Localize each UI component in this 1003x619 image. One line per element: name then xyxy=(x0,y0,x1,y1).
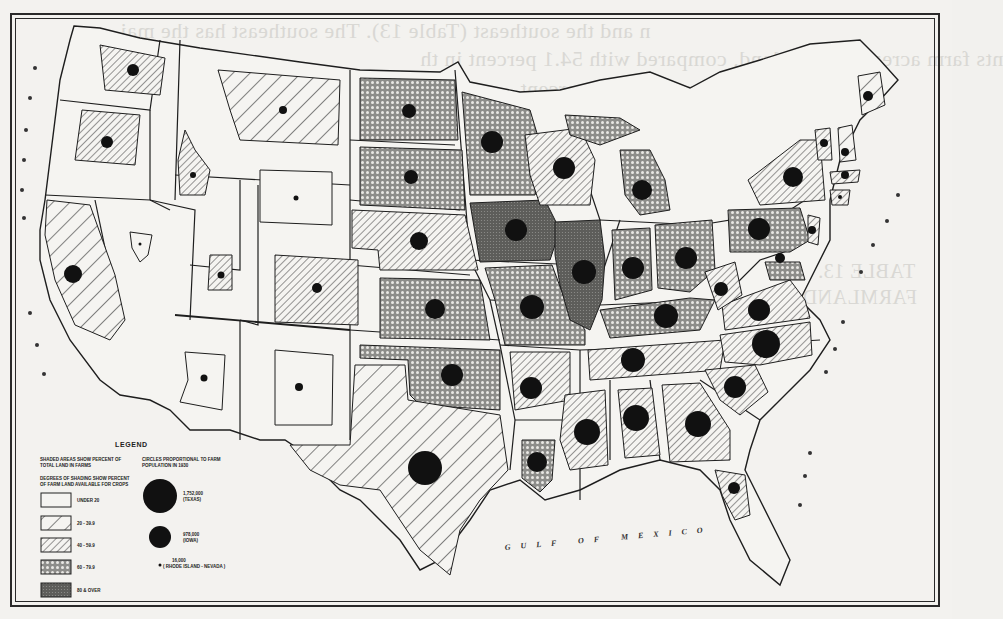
legend-label-under-20: UNDER 20 xyxy=(77,498,100,503)
circle-vermont xyxy=(820,139,828,147)
legend-swatch-80-over xyxy=(41,583,71,597)
circle-south-dakota xyxy=(404,170,418,184)
circle-maryland xyxy=(775,253,785,263)
circle-louisiana xyxy=(527,452,547,472)
circle-minnesota xyxy=(481,131,503,153)
legend-shading-heading-1: SHADED AREAS SHOW PERCENT OF xyxy=(40,457,122,462)
circle-georgia xyxy=(685,411,711,437)
circle-connecticut xyxy=(838,195,842,199)
gulf-label: GULF OF MEXICO xyxy=(504,525,713,552)
circle-california xyxy=(64,265,82,283)
legend-circles-heading-2: POPULATION IN 1930 xyxy=(142,463,189,468)
state-maryland[interactable] xyxy=(765,262,805,280)
circle-north-carolina xyxy=(752,330,780,358)
circle-new-york xyxy=(783,167,803,187)
legend-circle-small xyxy=(159,564,162,567)
circle-arizona xyxy=(201,375,208,382)
legend: LEGEND SHADED AREAS SHOW PERCENT OF TOTA… xyxy=(40,441,226,597)
circle-wyoming xyxy=(294,196,299,201)
circle-mississippi xyxy=(574,419,600,445)
circle-colorado xyxy=(312,283,322,293)
legend-label-80-over: 80 & OVER xyxy=(77,588,101,593)
circle-pennsylvania xyxy=(748,218,770,240)
legend-degrees-heading-2: OF FARM LAND AVAILABLE FOR CROPS xyxy=(40,482,128,487)
legend-swatch-under-20 xyxy=(41,493,71,507)
legend-circle-medium-state: (IOWA) xyxy=(183,538,198,543)
circle-north-dakota xyxy=(402,104,416,118)
circle-south-carolina xyxy=(724,376,746,398)
circle-arkansas xyxy=(520,377,542,399)
circle-illinois xyxy=(572,260,596,284)
circle-idaho xyxy=(190,172,196,178)
legend-label-20-39: 20 - 39.9 xyxy=(77,521,95,526)
circle-kansas xyxy=(425,299,445,319)
legend-circle-medium-value: 978,000 xyxy=(183,532,200,537)
legend-degrees-heading-1: DEGREES OF SHADING SHOW PERCENT xyxy=(40,476,130,481)
circle-west-virginia xyxy=(714,282,728,296)
legend-swatch-40-59 xyxy=(41,538,71,552)
circle-missouri xyxy=(520,295,544,319)
legend-circle-large xyxy=(143,479,177,513)
circle-ohio xyxy=(675,247,697,269)
circle-florida xyxy=(728,482,740,494)
legend-title: LEGEND xyxy=(115,441,148,448)
circle-nebraska xyxy=(410,232,428,250)
circle-nevada xyxy=(139,243,142,246)
circle-montana xyxy=(279,106,287,114)
circle-iowa xyxy=(505,219,527,241)
legend-circle-medium xyxy=(149,526,171,548)
legend-circle-large-state: (TEXAS) xyxy=(183,497,202,502)
legend-shading-heading-2: TOTAL LAND IN FARMS xyxy=(40,463,91,468)
legend-circles-heading-1: CIRCLES PROPORTIONAL TO FARM xyxy=(142,457,221,462)
legend-swatch-60-79 xyxy=(41,560,71,574)
circle-oregon xyxy=(101,136,113,148)
circle-oklahoma xyxy=(441,364,463,386)
state-new-mexico[interactable] xyxy=(275,350,333,425)
legend-swatches xyxy=(41,493,71,597)
circle-alabama xyxy=(623,405,649,431)
circle-utah xyxy=(218,272,225,279)
legend-circle-large-value: 1,752,000 xyxy=(183,491,204,496)
circle-kentucky xyxy=(654,304,678,328)
circle-texas xyxy=(408,451,442,485)
circle-new-jersey xyxy=(808,226,816,234)
legend-circle-small-state: ( RHODE ISLAND - NEVADA ) xyxy=(163,564,226,569)
state-arkansas[interactable] xyxy=(510,352,570,410)
legend-circle-small-value: 16,000 xyxy=(172,558,186,563)
legend-swatch-20-39 xyxy=(41,516,71,530)
state-florida[interactable] xyxy=(715,470,750,520)
circle-washington xyxy=(127,64,139,76)
circle-michigan xyxy=(632,180,652,200)
circle-massachusetts xyxy=(841,171,849,179)
circle-indiana xyxy=(622,257,644,279)
circle-maine xyxy=(863,91,873,101)
circle-new-hampshire xyxy=(841,148,849,156)
circle-virginia xyxy=(748,299,770,321)
legend-label-40-59: 40 - 59.9 xyxy=(77,543,95,548)
legend-label-60-79: 60 - 79.9 xyxy=(77,565,95,570)
circle-tennessee xyxy=(621,348,645,372)
circle-wisconsin xyxy=(553,157,575,179)
circle-new-mexico xyxy=(295,383,303,391)
